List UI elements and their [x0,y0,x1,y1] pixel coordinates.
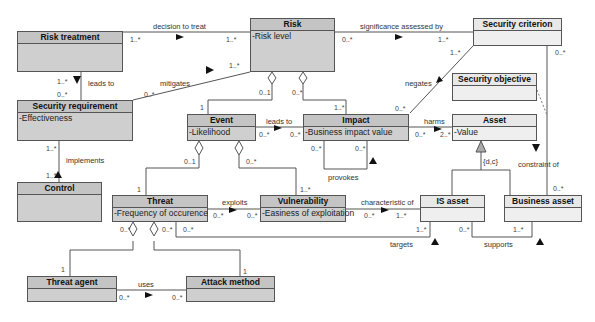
multiplicity: 0..1 [259,89,271,97]
assoc-label-constraint-of: constraint of [518,160,559,169]
assoc-label-implements: implements [66,156,104,165]
multiplicity: 1..* [226,36,237,44]
arrow-up-icon [369,157,377,164]
class-name: Attack method [187,277,274,289]
multiplicity: 0..* [292,89,303,97]
class-attribute: -Business impact value [304,127,408,138]
class-business-asset[interactable]: Business asset [504,195,582,222]
arrow-down-icon [73,76,81,84]
diamond-icon [195,141,203,155]
assoc-label-supports: supports [484,240,513,249]
multiplicity: 0..* [119,294,130,302]
class-risk[interactable]: Risk -Risk level [250,18,335,72]
multiplicity: 0..* [342,36,353,44]
arrow-right-icon [381,207,389,213]
assoc-label-targets: targets [390,240,413,249]
multiplicity: 0..* [311,145,322,153]
class-security-criterion[interactable]: Security criterion [473,18,562,46]
generalization-triangle-icon [476,141,486,152]
multiplicity: 0..* [213,212,224,220]
diamond-icon [235,141,243,155]
class-attack-method[interactable]: Attack method [186,276,275,302]
multiplicity: 0..* [120,226,131,234]
multiplicity: 1..* [396,212,407,220]
arrow-right-icon [395,34,403,40]
multiplicity: 1..* [229,62,240,70]
class-threat-agent[interactable]: Threat agent [27,276,117,302]
arrow-right-icon [206,66,214,74]
multiplicity: 0..* [144,91,155,99]
class-name: Vulnerability [261,196,345,208]
arrow-right-icon [176,34,184,40]
class-name: IS asset [421,196,484,208]
class-asset[interactable]: Asset -Value [452,114,537,141]
diamond-icon [268,72,276,84]
assoc-label-uses: uses [138,280,154,289]
multiplicity: 1..* [438,36,449,44]
multiplicity: 0..* [247,212,258,220]
multiplicity: 0..* [246,158,257,166]
class-risk-treatment[interactable]: Risk treatment [17,31,123,72]
multiplicity: 0..* [553,185,564,193]
class-attribute: -Risk level [251,31,334,42]
multiplicity: 1..* [416,226,427,234]
class-security-objective[interactable]: Security objective [452,73,537,101]
arrow-up-icon [431,238,439,245]
multiplicity: 1..* [450,49,461,57]
class-attribute: -Frequency of occurence [113,208,207,219]
assoc-label-provokes: provokes [328,173,358,182]
multiplicity: 2..* [440,131,451,139]
class-security-requirement[interactable]: Security requirement -Effectiveness [17,100,133,141]
class-control[interactable]: Control [17,182,102,222]
arrow-up-icon [536,238,544,245]
assoc-label-leads-to: leads to [88,79,114,88]
multiplicity: 0..* [364,212,375,220]
multiplicity: 1..* [334,104,345,112]
class-impact[interactable]: Impact -Business impact value [303,114,409,141]
class-name: Threat [113,196,207,208]
class-name: Control [18,183,101,195]
class-name: Threat agent [28,277,116,289]
multiplicity: 0..* [57,91,68,99]
class-name: Security requirement [18,101,132,113]
assoc-label-decision-to-treat: decision to treat [153,22,206,31]
class-is-asset[interactable]: IS asset [420,195,485,222]
class-event[interactable]: Event -Likelihood [187,114,256,141]
multiplicity: 1 [137,186,141,194]
uml-diagram: Risk treatment Risk -Risk level Security… [0,0,595,322]
multiplicity: 0..* [290,131,301,139]
class-attribute: -Likelihood [188,127,255,138]
multiplicity: 0..* [183,226,194,234]
class-threat[interactable]: Threat -Frequency of occurence [112,195,208,222]
multiplicity: 1 [61,266,65,274]
class-name: Event [188,115,255,127]
class-name: Impact [304,115,408,127]
arrow-right-icon [229,207,237,213]
class-name: Security objective [453,74,536,86]
multiplicity: 1 [200,104,204,112]
multiplicity: 0..* [172,294,183,302]
generalization-constraint: {d,c} [483,157,498,166]
assoc-label-exploits: exploits [222,198,247,207]
arrow-down-icon [532,144,540,152]
class-name: Business asset [505,196,581,208]
multiplicity: 0..* [555,49,566,57]
diamond-icon [150,222,158,236]
multiplicity: 1..* [57,78,68,86]
multiplicity: 1..* [130,36,141,44]
assoc-label-mitigates: mitigates [160,79,190,88]
diamond-icon [299,72,307,84]
multiplicity: 0..* [395,105,406,113]
multiplicity: 0..* [415,131,426,139]
multiplicity: 1..* [46,172,57,180]
multiplicity: 1..* [300,186,311,194]
class-vulnerability[interactable]: Vulnerability -Easiness of exploitation [260,195,346,222]
multiplicity: 1..* [46,145,57,153]
arrow-right-icon [145,292,153,298]
multiplicity: 1 [243,268,247,276]
assoc-label-leads-to-impact: leads to [266,117,292,126]
class-name: Risk [251,19,334,31]
class-attribute: -Value [453,127,536,138]
multiplicity: 1..* [513,226,524,234]
assoc-label-harms: harms [424,117,445,126]
